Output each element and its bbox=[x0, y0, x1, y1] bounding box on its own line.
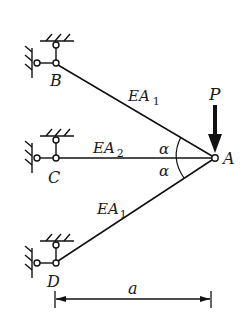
load-arrow-p bbox=[208, 105, 222, 153]
label-member-ca: EA2 bbox=[92, 139, 124, 160]
label-b: B bbox=[49, 71, 62, 90]
label-member-da: EA1 bbox=[96, 200, 127, 221]
label-a: A bbox=[221, 149, 235, 168]
label-dimension-a: a bbox=[128, 279, 138, 298]
support-c bbox=[25, 129, 74, 173]
label-p: P bbox=[208, 84, 221, 104]
joint-b-pin bbox=[53, 60, 59, 66]
label-d: D bbox=[46, 272, 60, 291]
member-da bbox=[58, 160, 212, 261]
label-alpha-upper: α bbox=[159, 140, 169, 158]
joint-d-pin bbox=[53, 260, 59, 266]
joint-a-pin bbox=[212, 155, 218, 161]
label-member-ba: EA1 bbox=[127, 87, 160, 108]
member-ba bbox=[58, 65, 212, 156]
joint-c-pin bbox=[53, 155, 59, 161]
truss-diagram: B C D A P EA1 EA2 EA1 α α a bbox=[0, 0, 252, 334]
label-alpha-lower: α bbox=[159, 162, 169, 180]
label-c: C bbox=[48, 168, 60, 187]
